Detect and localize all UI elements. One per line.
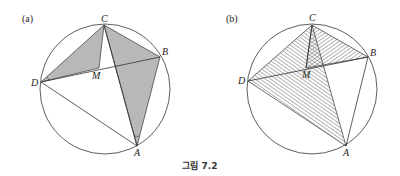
figure-canvas: (a) C B D M A (b) C B D M A [0,0,400,176]
panel-b-label: (b) [226,13,238,25]
panel-a: (a) C B D M A [22,13,170,158]
panel-a-label: (a) [22,13,33,25]
panel-b: (b) C B D M A [226,12,377,158]
point-a-label: A [133,147,141,158]
segment-ba-b [346,57,368,146]
point-c-label-b: C [309,12,316,23]
triangle-cbm-hatched [306,25,368,68]
point-c-label: C [101,13,108,24]
point-a-label-b: A [342,147,350,158]
point-d-label-b: D [237,75,246,86]
point-m-label: M [91,70,101,81]
point-d-label: D [30,77,39,88]
figure-caption: 그림 7.2 [0,159,400,172]
point-b-label: B [162,46,168,57]
point-b-label-b: B [370,47,376,58]
point-m-label-b: M [301,69,311,80]
